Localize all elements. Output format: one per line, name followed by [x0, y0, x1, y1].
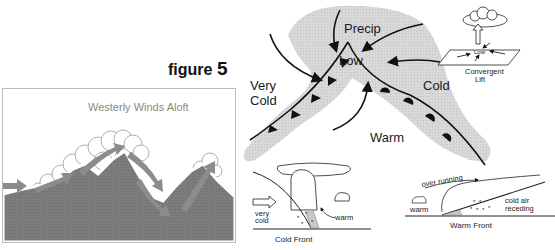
cumulonimbus-cloud [291, 170, 317, 210]
westerly-winds-panel: Westerly Winds Aloft [2, 88, 236, 243]
over-running-label: over running [421, 173, 464, 189]
warm-air-lift-arrow [321, 208, 335, 218]
warm-label: Warm [370, 130, 404, 145]
very-cold-label-line2: Cold [250, 93, 277, 108]
snow-symbol: * [301, 221, 304, 227]
snow-symbol: * [470, 206, 473, 212]
snow-symbol: * [488, 205, 491, 211]
mountain-range [3, 151, 235, 242]
drizzle-shading [442, 210, 462, 215]
convergent-lift-inset: Low Convergent Lift [438, 7, 520, 84]
warm-inset-label: warm [334, 213, 353, 222]
converging-arrow [483, 43, 490, 48]
figure-title-number: 5 [217, 58, 228, 79]
westerly-winds-illustration: Westerly Winds Aloft [3, 89, 235, 242]
small-cloud [335, 193, 350, 201]
snow-symbol: * [297, 215, 300, 221]
westerly-winds-title: Westerly Winds Aloft [88, 101, 189, 113]
cold-air-label-line2: receding [505, 204, 534, 213]
very-cold-label-line1: Very [250, 78, 277, 93]
convergent-cloud-icon [463, 7, 507, 27]
figure-title: figure 5 [168, 58, 227, 80]
warm-inset-label: warm [409, 205, 428, 214]
anvil-cloud [277, 163, 350, 176]
snow-symbol: * [482, 207, 485, 213]
warm-cloud-icon [412, 196, 426, 203]
precip-label: Precip [344, 21, 381, 36]
snow-symbol: * [476, 207, 479, 213]
warm-front-caption: Warm Front [450, 221, 493, 230]
very-cold-inset-line2: cold [255, 216, 269, 225]
figure-title-prefix: figure [168, 61, 212, 78]
convergent-low-label: Low [474, 49, 486, 55]
warm-front-inset: * * * * * * over running warm cold air r… [405, 173, 555, 230]
cold-label: Cold [423, 78, 450, 93]
convergent-caption-line2: Lift [475, 75, 486, 84]
cold-front-inset: * * * * very cold warm Cold Front [253, 163, 371, 244]
cold-air-push-arrow [253, 196, 276, 208]
low-label: Low [339, 53, 363, 68]
cold-front-caption: Cold Front [275, 235, 313, 244]
cyclone-diagram: Precip Low Very Cold Cold Warm Low Conve… [240, 0, 555, 250]
